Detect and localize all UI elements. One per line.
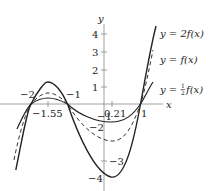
y-tick-2: 2 (92, 65, 98, 76)
y-tick-m2: −2 (89, 122, 104, 133)
legend-half-f: y = 1 2 f(x) (159, 82, 203, 96)
y-tick-4: 4 (92, 29, 98, 40)
y-axis-label: y (97, 13, 104, 24)
chart: y x 4 3 2 1 −2 −3 −4 −1 −2 −1 −1.55 0.21… (0, 0, 217, 191)
x-axis-label: x (166, 99, 172, 110)
curve-2f (16, 26, 156, 177)
y-tick-3: 3 (92, 47, 98, 58)
legend-2f: y = 2f(x) (159, 28, 204, 39)
x-tick-1: 1 (141, 108, 147, 119)
legend-f: y = f(x) (159, 54, 198, 65)
y-tick-m4: −4 (88, 173, 103, 184)
svg-text:y =: y = (159, 84, 177, 95)
x-tick-m155: −1.55 (32, 108, 63, 119)
x-tick-m2: −2 (20, 89, 35, 100)
svg-text:1: 1 (181, 82, 185, 89)
svg-text:f(x): f(x) (185, 84, 203, 95)
x-tick-021: 0.21 (104, 108, 126, 119)
curve-half-f (17, 82, 153, 129)
y-tick-m3: −3 (109, 156, 124, 167)
x-tick-m1: −1 (66, 89, 81, 100)
svg-text:2: 2 (181, 89, 185, 96)
y-tick-1: 1 (92, 82, 98, 93)
